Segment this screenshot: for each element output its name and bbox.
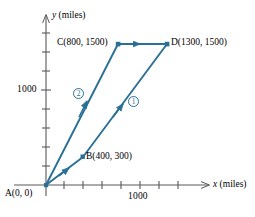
point-marker-d [165, 42, 170, 47]
y-axis [41, 15, 51, 196]
point-marker-a [44, 183, 48, 187]
point-label-b: B(400, 300) [86, 152, 132, 162]
point-label-c: C(800, 1500) [57, 38, 108, 48]
point-marker-c [116, 42, 121, 47]
vector-diagram-figure: y (miles) x (miles) 1000 1000 A(0, 0) B(… [0, 0, 255, 217]
point-label-a: A(0, 0) [5, 189, 32, 199]
y-axis-tick-label-1000: 1000 [17, 85, 37, 95]
x-axis-label: x (miles) [213, 180, 247, 190]
route-2-path [46, 44, 167, 185]
point-marker-b [81, 155, 85, 159]
x-axis-tick-label-1000: 1000 [128, 192, 148, 202]
y-axis-label: y (miles) [52, 11, 86, 21]
route-2-marker: 2 [73, 88, 84, 99]
point-markers [44, 42, 169, 187]
y-axis-label-unit: (miles) [56, 10, 85, 20]
route-1-marker: 1 [128, 96, 139, 107]
point-label-d: D(1300, 1500) [171, 38, 227, 48]
x-axis [14, 181, 209, 189]
x-axis-label-unit: (miles) [217, 179, 246, 189]
